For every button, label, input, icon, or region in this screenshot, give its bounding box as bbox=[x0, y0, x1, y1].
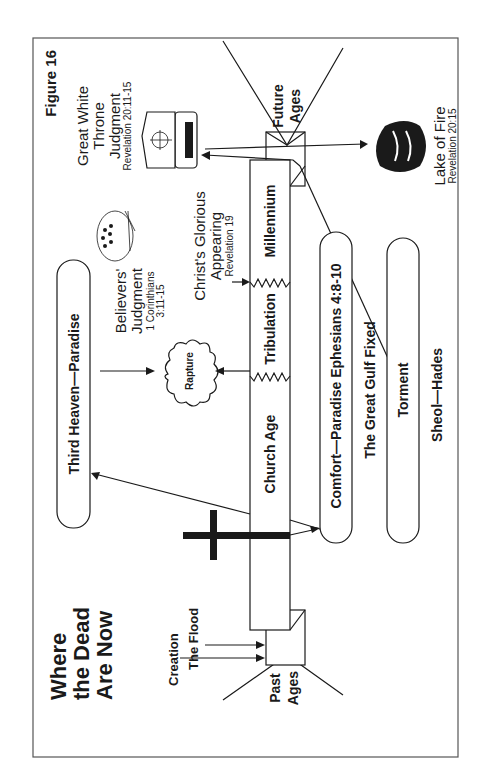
svg-text:Revelation 20:11-15: Revelation 20:11-15 bbox=[122, 81, 133, 170]
svg-text:Future: Future bbox=[270, 84, 286, 128]
segment-tribulation: Tribulation bbox=[262, 293, 278, 365]
past-ages-label: Past Ages bbox=[267, 671, 301, 705]
glorious-appearing-label: Christ's Glorious Appearing Revelation 1… bbox=[191, 191, 235, 301]
segment-church-age: Church Age bbox=[262, 414, 278, 493]
page-title: Where the Dead Are Now bbox=[46, 607, 117, 700]
cloud-icon: Rapture bbox=[165, 340, 218, 406]
throne-icon bbox=[142, 112, 197, 168]
figure-label: Figure 16 bbox=[42, 50, 59, 117]
sheol-hades-label: Sheol—Hades bbox=[429, 348, 445, 442]
third-heaven-label: Third Heaven—Paradise bbox=[66, 313, 82, 474]
svg-text:Judgment: Judgment bbox=[128, 267, 145, 334]
lake-of-fire-label: Lake of Fire Revelation 20:15 bbox=[431, 106, 458, 185]
diagram: Figure 16 Where the Dead Are Now Past Ag… bbox=[0, 0, 483, 766]
fire-icon bbox=[376, 121, 426, 172]
svg-text:Ages: Ages bbox=[287, 89, 303, 123]
svg-text:Where: Where bbox=[46, 633, 71, 700]
svg-text:Revelation 20:15: Revelation 20:15 bbox=[447, 108, 458, 183]
segment-millennium: Millennium bbox=[262, 184, 278, 257]
svg-text:Great White: Great White bbox=[74, 86, 91, 166]
comfort-link bbox=[290, 520, 323, 530]
svg-text:Judgment: Judgment bbox=[106, 92, 123, 159]
svg-text:Past: Past bbox=[267, 673, 283, 703]
svg-text:the Dead: the Dead bbox=[69, 607, 94, 700]
svg-text:Appearing: Appearing bbox=[207, 212, 224, 280]
svg-text:Ages: Ages bbox=[285, 671, 301, 705]
svg-text:Throne: Throne bbox=[90, 102, 107, 150]
svg-text:Creation: Creation bbox=[166, 633, 181, 686]
svg-text:Believers': Believers' bbox=[112, 269, 129, 334]
torment-label: Torment bbox=[395, 362, 411, 417]
svg-text:Christ's Glorious: Christ's Glorious bbox=[191, 191, 208, 301]
future-ages-label: Future Ages bbox=[270, 84, 303, 128]
svg-text:Are Now: Are Now bbox=[92, 610, 117, 700]
svg-text:Lake of Fire: Lake of Fire bbox=[431, 106, 448, 185]
svg-text:3:11-15: 3:11-15 bbox=[155, 284, 166, 318]
comfort-label: Comfort—Paradise Ephesians 4:8-10 bbox=[328, 263, 344, 508]
rapture-label: Rapture bbox=[184, 352, 195, 390]
crowd-icon bbox=[97, 211, 135, 261]
great-gulf-label: The Great Gulf Fixed bbox=[362, 321, 378, 459]
believers-judgment-label: Believers' Judgment 1 Corinthians 3:11-1… bbox=[112, 267, 166, 334]
arrow-to-third-heaven bbox=[95, 474, 250, 514]
gwt-label: Great White Throne Judgment Revelation 2… bbox=[74, 81, 133, 170]
creation-label: Creation The Flood bbox=[166, 608, 201, 686]
svg-text:Revelation 19: Revelation 19 bbox=[224, 215, 235, 277]
svg-text:The Flood: The Flood bbox=[186, 608, 201, 670]
